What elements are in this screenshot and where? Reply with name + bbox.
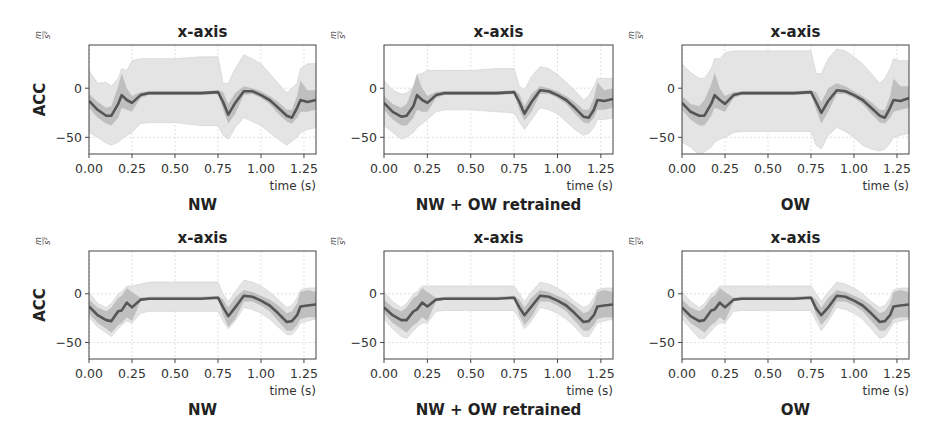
x-axis-label: time (s) — [566, 384, 613, 398]
svg-text:m: m — [329, 31, 338, 39]
x-tick-label: 1.00 — [544, 161, 572, 176]
panel-title: x-axis — [474, 23, 524, 41]
panel-subtitle: NW — [188, 196, 218, 214]
panel-grid: 0.000.250.500.751.001.250−50x-axistime (… — [31, 23, 911, 419]
x-tick-label: 0.25 — [413, 161, 441, 176]
panel-title: x-axis — [474, 229, 524, 247]
svg-text:s²: s² — [636, 31, 645, 39]
y-tick-label: −50 — [649, 335, 675, 350]
panel-subtitle: OW — [781, 196, 811, 214]
x-axis-label: time (s) — [862, 384, 909, 398]
svg-text:s²: s² — [338, 237, 347, 245]
x-tick-label: 0.00 — [75, 366, 103, 381]
panel-subtitle: OW — [781, 401, 811, 419]
panel-nw-r0: 0.000.250.500.751.001.250−50x-axistime (… — [31, 23, 318, 214]
y-tick-label: −50 — [351, 335, 377, 350]
x-tick-label: 1.25 — [290, 366, 318, 381]
x-tick-label: 0.75 — [797, 161, 825, 176]
x-tick-label: 0.50 — [457, 366, 485, 381]
y-tick-label: 0 — [369, 81, 377, 96]
x-tick-label: 0.75 — [797, 366, 825, 381]
x-tick-label: 0.75 — [500, 366, 528, 381]
x-tick-label: 0.25 — [711, 161, 739, 176]
y-unit-label: ms² — [34, 237, 52, 245]
svg-text:m: m — [34, 237, 43, 245]
x-tick-label: 0.25 — [118, 161, 146, 176]
panel-subtitle: NW + OW retrained — [416, 196, 582, 214]
x-tick-label: 0.25 — [711, 366, 739, 381]
x-tick-label: 0.00 — [668, 161, 696, 176]
panel-title: x-axis — [178, 23, 228, 41]
panel-title: x-axis — [771, 229, 821, 247]
x-tick-label: 1.25 — [587, 366, 615, 381]
x-tick-label: 1.25 — [883, 161, 911, 176]
y-unit-label: ms² — [627, 237, 645, 245]
y-tick-label: −50 — [649, 130, 675, 145]
svg-text:s²: s² — [43, 31, 52, 39]
x-axis-label: time (s) — [862, 179, 909, 193]
svg-text:s²: s² — [636, 237, 645, 245]
x-tick-label: 0.75 — [500, 161, 528, 176]
y-tick-label: −50 — [56, 335, 82, 350]
figure: 0.000.250.500.751.001.250−50x-axistime (… — [0, 0, 945, 439]
y-tick-label: −50 — [56, 130, 82, 145]
x-axis-label: time (s) — [566, 179, 613, 193]
x-tick-label: 0.25 — [118, 366, 146, 381]
y-tick-label: 0 — [667, 286, 675, 301]
svg-text:s²: s² — [338, 31, 347, 39]
y-axis-label: ACC — [31, 83, 49, 117]
panel-nw-ow-retrained-r1: 0.000.250.500.751.001.250−50x-axistime (… — [329, 229, 615, 419]
y-tick-label: 0 — [369, 286, 377, 301]
y-axis-label: ACC — [31, 288, 49, 322]
x-axis-label: time (s) — [269, 384, 316, 398]
y-unit-label: ms² — [329, 237, 347, 245]
x-tick-label: 0.00 — [370, 161, 398, 176]
y-unit-label: ms² — [627, 31, 645, 39]
x-tick-label: 0.50 — [754, 161, 782, 176]
panel-title: x-axis — [771, 23, 821, 41]
svg-text:m: m — [627, 31, 636, 39]
x-tick-label: 0.25 — [413, 366, 441, 381]
x-tick-label: 1.25 — [883, 366, 911, 381]
y-unit-label: ms² — [329, 31, 347, 39]
svg-text:m: m — [627, 237, 636, 245]
x-tick-label: 1.25 — [587, 161, 615, 176]
panel-title: x-axis — [178, 229, 228, 247]
panel-ow-r1: 0.000.250.500.751.001.250−50x-axistime (… — [627, 229, 911, 419]
svg-text:m: m — [329, 237, 338, 245]
x-axis-label: time (s) — [269, 179, 316, 193]
panel-subtitle: NW — [188, 401, 218, 419]
x-tick-label: 1.00 — [840, 161, 868, 176]
x-tick-label: 0.50 — [754, 366, 782, 381]
x-tick-label: 0.75 — [204, 366, 232, 381]
svg-text:m: m — [34, 31, 43, 39]
x-tick-label: 1.00 — [247, 161, 275, 176]
x-tick-label: 1.00 — [247, 366, 275, 381]
panel-nw-ow-retrained-r0: 0.000.250.500.751.001.250−50x-axistime (… — [329, 23, 615, 214]
panel-subtitle: NW + OW retrained — [416, 401, 582, 419]
panel-ow-r0: 0.000.250.500.751.001.250−50x-axistime (… — [627, 23, 911, 214]
x-tick-label: 0.00 — [370, 366, 398, 381]
x-tick-label: 0.50 — [161, 161, 189, 176]
y-tick-label: 0 — [74, 286, 82, 301]
y-unit-label: ms² — [34, 31, 52, 39]
x-tick-label: 1.00 — [544, 366, 572, 381]
x-tick-label: 0.75 — [204, 161, 232, 176]
x-tick-label: 0.00 — [75, 161, 103, 176]
x-tick-label: 1.25 — [290, 161, 318, 176]
svg-text:s²: s² — [43, 237, 52, 245]
x-tick-label: 0.50 — [161, 366, 189, 381]
y-tick-label: 0 — [74, 81, 82, 96]
x-tick-label: 0.00 — [668, 366, 696, 381]
y-tick-label: 0 — [667, 81, 675, 96]
panel-nw-r1: 0.000.250.500.751.001.250−50x-axistime (… — [31, 229, 318, 419]
x-tick-label: 0.50 — [457, 161, 485, 176]
y-tick-label: −50 — [351, 130, 377, 145]
x-tick-label: 1.00 — [840, 366, 868, 381]
